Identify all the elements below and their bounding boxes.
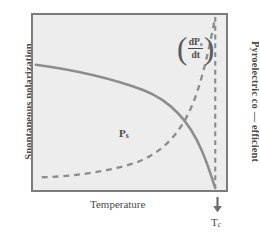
fraction-numerator: dPs xyxy=(188,37,204,48)
x-axis-label: Temperature xyxy=(90,198,145,210)
pyroelectric-figure: Spontaneous polarization Pyroelectric co… xyxy=(0,0,259,236)
tc-label-subscript: c xyxy=(218,220,221,229)
fraction: dPs dt xyxy=(188,37,204,60)
open-paren: ( xyxy=(177,36,187,61)
down-arrow-icon xyxy=(212,197,223,213)
fraction-numerator-subscript: s xyxy=(200,40,203,47)
close-paren: ) xyxy=(204,36,214,61)
ps-curve-label: Ps xyxy=(119,127,129,140)
fraction-numerator-text: dP xyxy=(189,37,200,47)
ps-curve-label-text: P xyxy=(119,127,126,139)
derivative-label: ( dPs dt ) xyxy=(177,36,214,61)
tc-label: Tc xyxy=(211,216,221,229)
fraction-denominator: dt xyxy=(190,50,200,61)
tc-label-text: T xyxy=(211,216,218,228)
ps-curve-label-subscript: s xyxy=(126,131,129,140)
y-axis-right-label: Pyroelectric co — efficient xyxy=(250,22,260,182)
